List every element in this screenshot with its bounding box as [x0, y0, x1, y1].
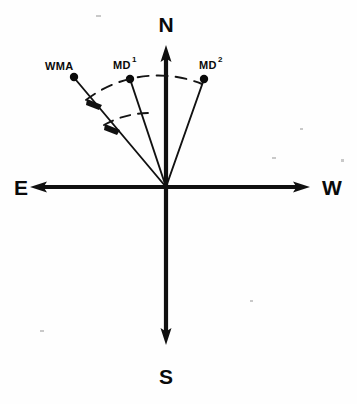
compass-axes-group [30, 45, 310, 345]
compass-diagram-figure: N S E W WMA MD 1 MD 2 [0, 0, 357, 404]
label-ray-md2-superscript: 2 [218, 55, 223, 64]
scan-speck [96, 15, 101, 17]
ray-line-md2 [166, 82, 203, 187]
direction-rays-group [70, 73, 208, 187]
outer-dashed-arc [86, 75, 202, 100]
ray-line-md1 [131, 82, 166, 187]
label-ray-md2: MD [199, 59, 217, 71]
angle-marker-inner-icon [104, 124, 120, 135]
scan-noise-group [40, 15, 344, 332]
label-ray-wma: WMA [45, 60, 73, 72]
scan-speck [272, 157, 276, 159]
scan-speck [250, 300, 253, 302]
label-north: N [158, 13, 173, 36]
endpoint-dot-md2 [200, 75, 208, 83]
ray-line-wma [76, 80, 166, 187]
scan-speck [341, 159, 344, 162]
dashed-arcs-group [86, 75, 202, 125]
angle-markers-group [86, 99, 120, 135]
label-south: S [159, 365, 173, 388]
label-ray-md1-superscript: 1 [132, 55, 137, 64]
scan-speck [40, 330, 44, 332]
scan-speck [300, 128, 303, 130]
label-west: W [322, 176, 342, 199]
label-east: E [14, 176, 28, 199]
compass-diagram-canvas: N S E W WMA MD 1 MD 2 [0, 0, 357, 404]
endpoint-dot-wma [70, 73, 78, 81]
label-ray-md1: MD [113, 59, 131, 71]
